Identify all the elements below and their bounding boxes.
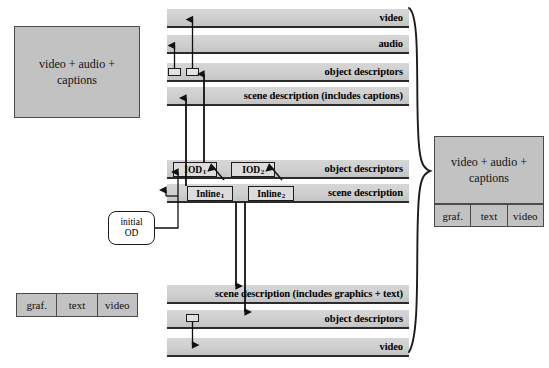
- left-box-text: video + audio + captions: [15, 56, 139, 88]
- right-media-strip: graf. text video: [434, 204, 544, 227]
- token-inline2-base: Inline: [257, 189, 281, 199]
- left-video-audio-captions-box: video + audio + captions: [14, 26, 140, 118]
- token-iod2-base: IOD: [242, 165, 260, 175]
- stream-band-top-video-label: video: [380, 12, 403, 23]
- stream-band-top-audio-label: audio: [378, 38, 403, 49]
- stream-band-top-video: video: [167, 9, 409, 28]
- stream-band-bottom-object-descriptors-label: object descriptors: [325, 313, 403, 324]
- stream-band-bottom-scene-description-label: scene description (includes graphics + t…: [215, 288, 403, 299]
- left-box-line2: captions: [57, 73, 97, 87]
- token-inline1: Inline1: [187, 186, 233, 201]
- stream-band-bottom-scene-description: scene description (includes graphics + t…: [167, 285, 409, 304]
- token-inline1-sub: 1: [221, 192, 225, 200]
- od-pointer-square-top-right: [186, 68, 199, 76]
- right-box-line1: video + audio +: [451, 155, 527, 169]
- od-pointer-square-top-left: [168, 68, 181, 76]
- token-iod1-sub: 1: [203, 168, 207, 176]
- initial-od-callout-text: initial OD: [120, 217, 142, 240]
- token-inline1-base: Inline: [196, 189, 220, 199]
- left-strip-cell-graf: graf.: [17, 294, 57, 316]
- token-inline2: Inline2: [248, 186, 294, 201]
- diagram-canvas: video + audio + captions graf. text vide…: [0, 0, 549, 368]
- right-box-text: video + audio + captions: [435, 154, 543, 186]
- right-strip-cell-text: text: [471, 205, 507, 226]
- initial-od-callout: initial OD: [108, 211, 155, 245]
- left-strip-cell-video: video: [98, 294, 137, 316]
- token-iod2-sub: 2: [261, 168, 265, 176]
- stream-band-top-audio: audio: [167, 35, 409, 54]
- od-pointer-square-bottom: [186, 314, 199, 322]
- left-box-line1: video + audio +: [39, 57, 115, 71]
- stream-band-top-object-descriptors: object descriptors: [167, 63, 409, 82]
- left-strip-cell-text: text: [57, 294, 97, 316]
- stream-band-bottom-video: video: [167, 338, 409, 357]
- token-iod1-base: IOD: [184, 165, 202, 175]
- token-iod2: IOD2: [231, 162, 275, 177]
- initial-od-line2: OD: [125, 228, 139, 238]
- grouping-brace: [409, 8, 430, 352]
- right-box-line2: captions: [469, 171, 509, 185]
- left-media-strip: graf. text video: [16, 293, 138, 317]
- stream-band-top-scene-description: scene description (includes captions): [167, 87, 409, 106]
- right-video-audio-captions-box: video + audio + captions: [434, 136, 544, 204]
- stream-band-middle-scene-description-label: scene description: [328, 187, 403, 198]
- right-strip-cell-video: video: [508, 205, 543, 226]
- initial-od-line1: initial: [120, 217, 142, 227]
- right-strip-cell-graf: graf.: [435, 205, 471, 226]
- token-inline2-sub: 2: [282, 192, 286, 200]
- stream-band-bottom-object-descriptors: object descriptors: [167, 310, 409, 329]
- stream-band-bottom-video-label: video: [380, 341, 403, 352]
- stream-band-middle-object-descriptors-label: object descriptors: [325, 163, 403, 174]
- token-iod1: IOD1: [173, 162, 217, 177]
- stream-band-top-object-descriptors-label: object descriptors: [325, 66, 403, 77]
- stream-band-top-scene-description-label: scene description (includes captions): [244, 90, 403, 101]
